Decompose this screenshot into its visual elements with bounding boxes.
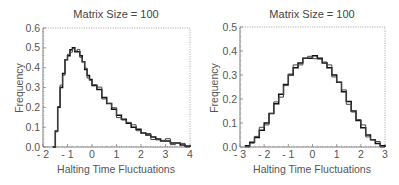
y-tick-label: 0.6 bbox=[25, 22, 40, 34]
x-tick-label: 1 bbox=[334, 148, 340, 160]
x-tick-label: - 1 bbox=[282, 148, 294, 160]
x-tick-label: - 1 bbox=[61, 148, 73, 160]
y-tick-label: 0.2 bbox=[25, 101, 40, 113]
x-tick-label: - 2 bbox=[258, 148, 270, 160]
x-tick-label: 2 bbox=[358, 148, 364, 160]
y-tick-label: 0.4 bbox=[25, 61, 40, 73]
y-tick-label: 0.5 bbox=[25, 41, 40, 53]
x-tick-label: 1 bbox=[114, 148, 120, 160]
histogram-series bbox=[245, 56, 385, 147]
x-tick-label: 0 bbox=[89, 148, 95, 160]
chart-panel-left: Matrix Size = 100 Frequency Halting Time… bbox=[0, 0, 200, 185]
histogram-series bbox=[53, 49, 190, 147]
y-tick-label: 0.4 bbox=[222, 45, 237, 57]
x-tick-label: 0 bbox=[310, 148, 316, 160]
y-tick-label: 0.2 bbox=[222, 93, 237, 105]
x-tick-label: 2 bbox=[138, 148, 144, 160]
x-tick-label: 3 bbox=[163, 148, 169, 160]
chart-panel-right: Matrix Size = 100 Frequency Halting Time… bbox=[200, 0, 399, 185]
y-tick-label: 0.1 bbox=[222, 117, 237, 129]
histogram-series bbox=[53, 48, 190, 147]
x-tick-label: 3 bbox=[382, 148, 388, 160]
plot-frame bbox=[43, 28, 190, 147]
plot-frame bbox=[240, 27, 385, 147]
y-tick-label: 0.0 bbox=[222, 141, 237, 153]
plot-area: - 2- 1012340.00.10.20.30.40.50.6 bbox=[0, 0, 200, 185]
x-tick-label: 4 bbox=[187, 148, 193, 160]
plot-area: - 3- 2- 101230.00.10.20.30.40.5 bbox=[200, 0, 399, 185]
y-tick-label: 0.0 bbox=[25, 141, 40, 153]
y-tick-label: 0.1 bbox=[25, 121, 40, 133]
histogram-series bbox=[245, 56, 385, 147]
y-tick-label: 0.3 bbox=[25, 81, 40, 93]
y-tick-label: 0.3 bbox=[222, 69, 237, 81]
y-tick-label: 0.5 bbox=[222, 21, 237, 33]
